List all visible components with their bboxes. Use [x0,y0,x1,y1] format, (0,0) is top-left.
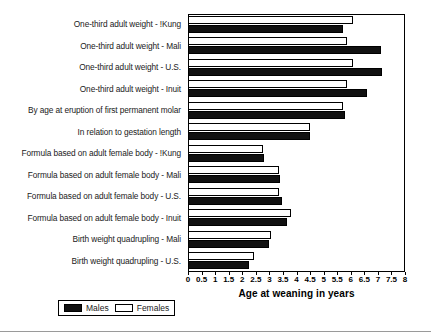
category-label: One-third adult weight - Mali [80,36,181,58]
x-axis-tick-label: 8 [403,275,407,284]
bar-row [188,251,405,273]
legend-item-females: Females [115,303,170,313]
bar-males [188,218,287,226]
bar-rows-container [188,14,405,272]
bar-females [188,188,279,196]
bar-females [188,231,271,239]
page-divider-rule [0,331,431,332]
x-axis-tick-label: 1.5 [223,275,234,284]
bar-females [188,102,343,110]
x-axis-tick-label: 0.5 [196,275,207,284]
x-axis-tick-label: 7.5 [386,275,397,284]
bar-females [188,59,353,67]
category-label: Birth weight quadrupling - Mali [72,229,181,251]
bar-females [188,37,347,45]
x-axis-tick-label: 3.5 [277,275,288,284]
bar-row [188,79,405,101]
x-axis-tick-label: 5 [321,275,325,284]
bar-females [188,16,353,24]
x-axis-tick-label: 2 [240,275,244,284]
x-axis-tick-label: 4.5 [305,275,316,284]
category-label: Formula based on adult female body - !Ku… [21,143,181,165]
bar-females [188,80,347,88]
x-axis-tick-label: 2.5 [250,275,261,284]
bar-males [188,46,381,54]
x-axis: 00.511.522.533.544.555.566.577.58 [188,272,405,286]
category-label: By age at eruption of first permanent mo… [28,100,181,122]
category-label: One-third adult weight - Inuit [80,79,181,101]
bar-males [188,68,382,76]
category-label: Birth weight quadrupling - U.S. [72,251,181,273]
category-label: Formula based on adult female body - Inu… [27,208,181,230]
bar-row [188,14,405,36]
category-label: Formula based on adult female body - U.S… [27,186,181,208]
chart-legend: Males Females [58,300,175,316]
bar-females [188,252,254,260]
category-label: In relation to gestation length [78,122,181,144]
legend-item-males: Males [64,303,109,313]
x-axis-tick-label: 0 [186,275,190,284]
bar-males [188,89,367,97]
bar-row [188,100,405,122]
legend-swatch-males [64,304,82,312]
category-axis-labels: One-third adult weight - !KungOne-third … [0,14,185,272]
bar-females [188,209,291,217]
bar-females [188,145,263,153]
x-axis-tick-label: 7 [376,275,380,284]
legend-label-females: Females [137,303,170,313]
x-axis-tick-label: 1 [213,275,217,284]
bar-males [188,197,282,205]
bar-row [188,122,405,144]
bar-males [188,175,280,183]
legend-label-males: Males [86,303,109,313]
bar-females [188,123,310,131]
x-axis-tick-label: 3 [267,275,271,284]
bar-males [188,240,269,248]
bar-row [188,208,405,230]
bar-males [188,261,249,269]
x-axis-tick-label: 6.5 [359,275,370,284]
bar-females [188,166,279,174]
bar-males [188,111,345,119]
weaning-age-bar-chart: One-third adult weight - !KungOne-third … [0,0,431,334]
bar-males [188,132,310,140]
x-axis-tick-label: 6 [349,275,353,284]
bar-row [188,36,405,58]
legend-swatch-females [115,304,133,312]
bar-row [188,229,405,251]
x-axis-tick-label: 5.5 [332,275,343,284]
bar-row [188,165,405,187]
bar-row [188,143,405,165]
bar-row [188,186,405,208]
bar-males [188,154,264,162]
category-label: One-third adult weight - U.S. [79,57,181,79]
x-axis-tick-label: 4 [294,275,298,284]
category-label: One-third adult weight - !Kung [74,14,181,36]
bar-males [188,25,343,33]
bar-row [188,57,405,79]
category-label: Formula based on adult female body - Mal… [28,165,181,187]
x-axis-title: Age at weaning in years [188,288,405,299]
